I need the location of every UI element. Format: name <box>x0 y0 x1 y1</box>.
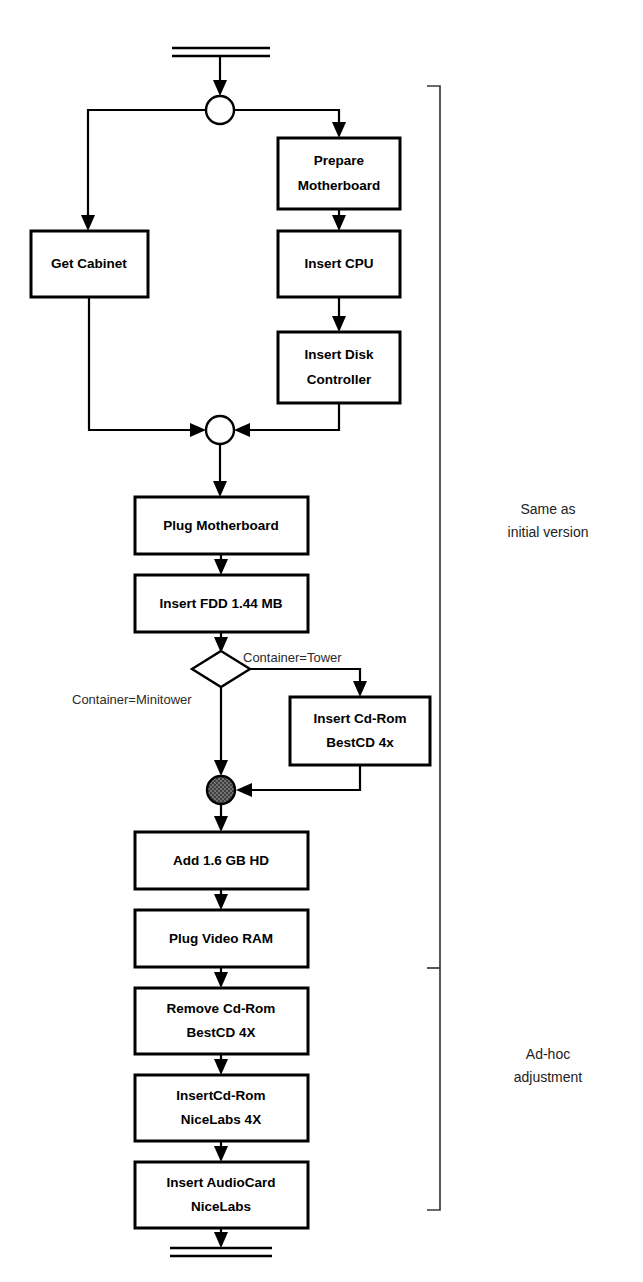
edge-prepare-to-cpu <box>332 209 346 231</box>
node-insert-audiocard-line1: Insert AudioCard <box>166 1175 275 1190</box>
annotation-upper-line2: initial version <box>508 524 589 540</box>
node-insert-fdd-line1: Insert FDD 1.44 MB <box>159 596 282 611</box>
guard-label-minitower: Container=Minitower <box>72 692 192 707</box>
node-insert-fdd[interactable]: Insert FDD 1.44 MB <box>135 575 308 632</box>
start-terminal <box>172 48 270 56</box>
flowchart-svg: Prepare Motherboard Get Cabinet Insert C… <box>0 0 643 1282</box>
node-plug-video-ram[interactable]: Plug Video RAM <box>135 910 308 967</box>
node-plug-motherboard-line1: Plug Motherboard <box>163 518 279 533</box>
node-insert-cdrom-bestcd-line2: BestCD 4x <box>326 735 394 750</box>
node-prepare-motherboard-line1: Prepare <box>314 153 365 168</box>
edge-audiocard-to-end <box>214 1228 228 1248</box>
node-insert-disk-controller-line2: Controller <box>307 372 372 387</box>
guard-label-tower: Container=Tower <box>243 650 342 665</box>
node-insert-cpu[interactable]: Insert CPU <box>278 231 400 297</box>
edge-video-ram-to-remove-cdrom <box>214 967 228 988</box>
edge-get-cabinet-to-join <box>89 297 206 437</box>
node-plug-motherboard[interactable]: Plug Motherboard <box>135 497 308 554</box>
decision-container-type[interactable] <box>192 651 250 687</box>
node-insert-cdrom-nicelabs[interactable]: InsertCd-Rom NiceLabs 4X <box>135 1075 308 1141</box>
scope-bracket <box>427 86 440 1210</box>
fork-node <box>206 96 234 124</box>
node-remove-cdrom-bestcd-line1: Remove Cd-Rom <box>167 1001 276 1016</box>
edge-merge-to-add-hd <box>214 804 228 832</box>
node-insert-disk-controller[interactable]: Insert Disk Controller <box>278 332 400 403</box>
edge-decision-to-cdrom <box>250 669 367 697</box>
join-node <box>206 416 234 444</box>
node-insert-cpu-line1: Insert CPU <box>304 256 373 271</box>
edge-fork-to-get-cabinet <box>81 110 206 231</box>
node-insert-audiocard-line2: NiceLabs <box>191 1199 251 1214</box>
merge-node <box>207 776 235 804</box>
annotation-lower-line1: Ad-hoc <box>526 1046 570 1062</box>
node-add-hd[interactable]: Add 1.6 GB HD <box>135 832 308 889</box>
node-prepare-motherboard-line2: Motherboard <box>298 178 381 193</box>
annotation-lower: Ad-hoc adjustment <box>514 1046 583 1085</box>
edge-cpu-to-disk-controller <box>332 297 346 332</box>
edge-join-to-plug-motherboard <box>213 444 227 497</box>
edge-decision-to-merge <box>214 687 228 776</box>
node-get-cabinet-line1: Get Cabinet <box>51 256 127 271</box>
node-insert-audiocard[interactable]: Insert AudioCard NiceLabs <box>135 1162 308 1228</box>
edge-fork-to-prepare-motherboard <box>234 110 346 138</box>
edge-remove-cdrom-to-insert-nicelabs <box>214 1054 228 1075</box>
node-plug-video-ram-line1: Plug Video RAM <box>169 931 273 946</box>
annotation-upper-line1: Same as <box>520 501 575 517</box>
node-remove-cdrom-bestcd-line2: BestCD 4X <box>186 1025 255 1040</box>
end-terminal <box>170 1248 272 1256</box>
node-prepare-motherboard[interactable]: Prepare Motherboard <box>278 138 400 209</box>
node-remove-cdrom-bestcd[interactable]: Remove Cd-Rom BestCD 4X <box>135 988 308 1054</box>
edge-add-hd-to-video-ram <box>214 889 228 910</box>
node-insert-disk-controller-line1: Insert Disk <box>304 347 374 362</box>
edge-insert-nicelabs-to-audiocard <box>214 1141 228 1162</box>
annotation-lower-line2: adjustment <box>514 1069 583 1085</box>
edge-plug-motherboard-to-fdd <box>214 554 228 575</box>
activity-diagram-canvas: Prepare Motherboard Get Cabinet Insert C… <box>0 0 643 1282</box>
node-get-cabinet[interactable]: Get Cabinet <box>31 231 148 297</box>
node-insert-cdrom-bestcd-line1: Insert Cd-Rom <box>313 711 406 726</box>
edge-cdrom-to-merge <box>236 765 360 797</box>
node-add-hd-line1: Add 1.6 GB HD <box>173 853 269 868</box>
edge-disk-controller-to-join <box>234 403 339 437</box>
node-insert-cdrom-nicelabs-line1: InsertCd-Rom <box>176 1088 265 1103</box>
edge-start-to-fork <box>213 56 227 96</box>
annotation-upper: Same as initial version <box>508 501 589 540</box>
node-insert-cdrom-bestcd[interactable]: Insert Cd-Rom BestCD 4x <box>290 697 430 765</box>
node-insert-cdrom-nicelabs-line2: NiceLabs 4X <box>181 1112 261 1127</box>
